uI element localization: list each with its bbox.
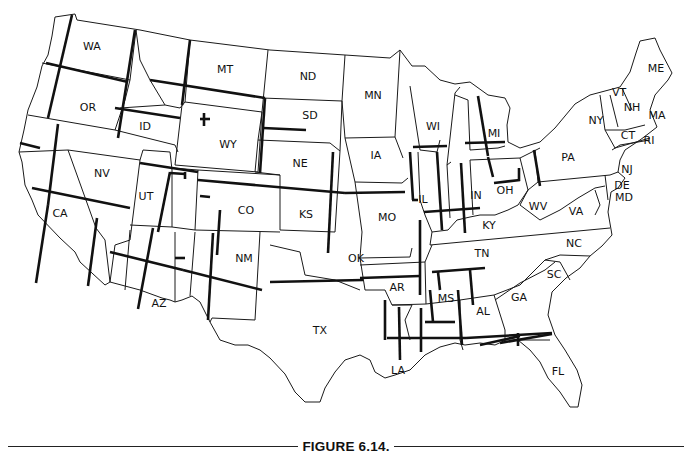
state-label: NC bbox=[566, 237, 582, 250]
state-label: MT bbox=[217, 63, 233, 76]
state-label: PA bbox=[561, 151, 575, 164]
state-label: AL bbox=[476, 305, 491, 318]
state-label: MO bbox=[378, 211, 396, 224]
state-label: CA bbox=[52, 207, 68, 220]
state-label: OR bbox=[80, 101, 97, 114]
state-label: RI bbox=[644, 134, 655, 147]
state-label: AR bbox=[389, 281, 405, 294]
state-label: CO bbox=[238, 204, 255, 217]
state-label: FL bbox=[552, 365, 565, 378]
state-label: GA bbox=[511, 291, 528, 304]
state-label: MN bbox=[364, 89, 382, 102]
caption-rule-right bbox=[394, 446, 684, 447]
state-label: NE bbox=[292, 157, 307, 170]
state-label: MD bbox=[615, 191, 633, 204]
us-states-map: WA OR ID MT WY ND SD NE MN IA WI MI NV U… bbox=[0, 0, 692, 430]
state-label: TX bbox=[312, 324, 328, 337]
state-label: SD bbox=[302, 109, 317, 122]
state-label: MS bbox=[438, 292, 454, 305]
state-label: CT bbox=[621, 129, 636, 142]
figure-caption-row: FIGURE 6.14. bbox=[8, 436, 684, 456]
state-label: LA bbox=[391, 364, 405, 377]
state-label: NV bbox=[94, 167, 110, 180]
state-label: NY bbox=[589, 114, 604, 127]
state-label: WY bbox=[219, 138, 237, 151]
figure-caption: FIGURE 6.14. bbox=[298, 439, 393, 454]
state-label: WA bbox=[83, 40, 101, 53]
state-label: NJ bbox=[621, 163, 632, 176]
state-label: WI bbox=[426, 120, 440, 133]
state-label: ME bbox=[648, 62, 664, 75]
state-label: TN bbox=[474, 247, 490, 260]
state-label: VA bbox=[569, 205, 584, 218]
state-label: OH bbox=[497, 184, 514, 197]
state-label: UT bbox=[139, 190, 154, 203]
state-label: AZ bbox=[151, 297, 167, 310]
state-label: MA bbox=[648, 109, 665, 122]
caption-rule-left bbox=[8, 446, 298, 447]
state-label: IL bbox=[418, 193, 428, 206]
state-label: IN bbox=[470, 189, 481, 202]
state-label: SC bbox=[547, 268, 562, 281]
state-label: NM bbox=[235, 252, 253, 265]
state-label: VT bbox=[612, 86, 627, 99]
state-label: NH bbox=[624, 101, 641, 114]
state-label: KY bbox=[482, 219, 496, 232]
state-label: IA bbox=[371, 149, 382, 162]
state-label: ND bbox=[300, 70, 317, 83]
state-label: ID bbox=[139, 120, 151, 133]
state-label: KS bbox=[299, 208, 313, 221]
state-label: WV bbox=[529, 200, 548, 213]
state-label: MI bbox=[488, 127, 501, 140]
state-label: OK bbox=[348, 252, 365, 265]
